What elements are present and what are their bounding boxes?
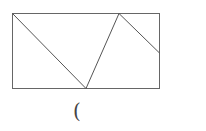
rectangle xyxy=(13,14,160,89)
caption-parenthesis: ( xyxy=(73,101,81,121)
segment-1 xyxy=(13,14,87,89)
geometry-figure xyxy=(0,0,206,131)
segment-2 xyxy=(86,14,119,89)
segment-3 xyxy=(119,14,160,54)
